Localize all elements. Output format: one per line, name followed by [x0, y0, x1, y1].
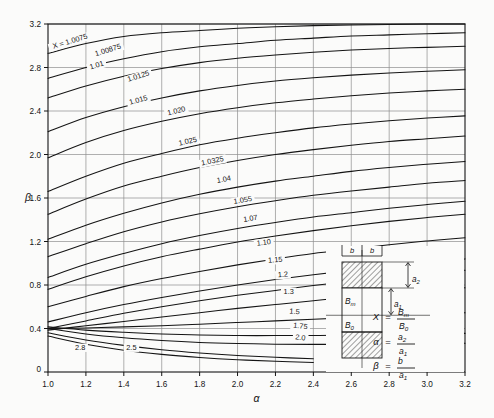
x-tick-label-2.8: 2.8 [383, 380, 395, 389]
dim-label-b-right: b [370, 246, 374, 255]
nomograph-svg: X = 1.00751.008751.011.01251.0151.0201.0… [0, 0, 494, 418]
formula-lhs-β: β [372, 360, 379, 371]
formula-equals: = [385, 311, 391, 322]
x-tick-label-1.8: 1.8 [194, 380, 206, 389]
formula-equals: = [385, 336, 391, 347]
curve-label-1.15: 1.15 [268, 255, 283, 265]
x-tick-label-2.4: 2.4 [308, 380, 320, 389]
formula-lhs-X: X [372, 311, 380, 322]
x-tick-label-3.2: 3.2 [459, 380, 471, 389]
y-tick-label-3.2: 3.2 [30, 20, 42, 29]
x-tick-label-1.0: 1.0 [42, 380, 54, 389]
curve-label-1.3: 1.3 [284, 287, 294, 296]
y-axis-label: β [24, 191, 31, 203]
chart-figure: X = 1.00751.008751.011.01251.0151.0201.0… [0, 0, 494, 418]
formula-numerator: b [398, 356, 403, 366]
y-tick-label-0.8: 0.8 [30, 281, 42, 290]
curve-label-2.8: 2.8 [75, 343, 85, 352]
x-tick-label-1.6: 1.6 [156, 380, 168, 389]
x-axis-label: α [254, 392, 261, 404]
y-tick-label-1.2: 1.2 [30, 238, 42, 247]
dim-label-b-left: b [350, 246, 354, 255]
curve-label-1.2: 1.2 [277, 270, 288, 280]
curve-label-1.10: 1.10 [256, 237, 271, 248]
y-tick-label-2.4: 2.4 [30, 107, 42, 116]
x-tick-label-3.0: 3.0 [421, 380, 433, 389]
x-tick-label-2.0: 2.0 [232, 380, 244, 389]
x-tick-label-1.2: 1.2 [80, 380, 92, 389]
x-tick-label-2.2: 2.2 [270, 380, 282, 389]
curve-label-2.0: 2.0 [295, 332, 306, 342]
y-tick-label-2.8: 2.8 [30, 64, 42, 73]
curve-label-1.5: 1.5 [289, 306, 300, 316]
curve-label-2.5: 2.5 [126, 343, 136, 352]
formula-lhs-α: α [373, 336, 379, 347]
formula-equals: = [385, 360, 391, 371]
y-tick-label-0.4: 0.4 [30, 325, 42, 334]
y-tick-label-0: 0 [36, 365, 41, 374]
y-tick-label-2.0: 2.0 [30, 151, 42, 160]
x-tick-label-1.4: 1.4 [118, 380, 130, 389]
curve-label-1.75: 1.75 [293, 321, 308, 332]
x-tick-label-2.6: 2.6 [346, 380, 358, 389]
y-tick-label-1.6: 1.6 [30, 194, 42, 203]
